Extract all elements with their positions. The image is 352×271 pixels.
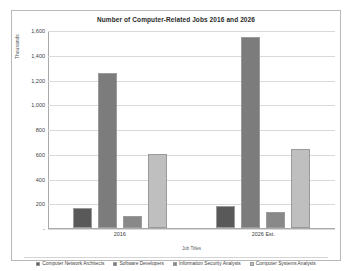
y-axis-tick-label: 800 xyxy=(36,127,45,133)
y-axis-tick-label: 1,200 xyxy=(31,78,45,84)
y-axis-tick-label: 1,000 xyxy=(31,102,45,108)
y-axis-tick-label: - xyxy=(43,226,45,232)
bar[interactable] xyxy=(266,212,285,228)
legend-label: Software Developers xyxy=(119,261,164,266)
legend-item[interactable]: Computer Systems Analysts xyxy=(250,261,316,266)
y-axis-tick-label: 1,600 xyxy=(31,28,45,34)
legend-swatch-icon xyxy=(173,262,177,266)
bar[interactable] xyxy=(123,216,142,228)
y-axis-title: Thousands xyxy=(14,34,20,59)
legend-divider xyxy=(24,257,328,258)
bar[interactable] xyxy=(73,208,92,228)
x-axis-title: Job Titles xyxy=(48,246,335,251)
y-axis-tick-label: 400 xyxy=(36,177,45,183)
y-axis-tick-label: 600 xyxy=(36,152,45,158)
legend-swatch-icon xyxy=(36,262,40,266)
bar[interactable] xyxy=(216,206,235,228)
y-axis-tick-label: 1,400 xyxy=(31,53,45,59)
bar-group: 2016 xyxy=(48,30,192,228)
plot-area: 1,6001,4001,2001,000800600400200-2016202… xyxy=(48,31,335,229)
gridline xyxy=(48,229,335,230)
chart-legend: Computer Network ArchitectsSoftware Deve… xyxy=(12,261,340,266)
legend-item[interactable]: Software Developers xyxy=(113,261,164,266)
bar[interactable] xyxy=(148,154,167,228)
bar[interactable] xyxy=(291,149,310,228)
legend-swatch-icon xyxy=(113,262,117,266)
bar-group: 2026 Est. xyxy=(192,30,336,228)
legend-label: Information Security Analysts xyxy=(179,261,241,266)
bar[interactable] xyxy=(98,73,117,228)
legend-swatch-icon xyxy=(250,262,254,266)
bar[interactable] xyxy=(241,37,260,228)
chart-frame: Number of Computer-Related Jobs 2016 and… xyxy=(11,10,341,261)
x-axis-category-label: 2026 Est. xyxy=(192,231,336,237)
legend-item[interactable]: Information Security Analysts xyxy=(173,261,241,266)
legend-label: Computer Network Architects xyxy=(42,261,104,266)
legend-item[interactable]: Computer Network Architects xyxy=(36,261,104,266)
chart-title: Number of Computer-Related Jobs 2016 and… xyxy=(12,16,340,23)
legend-label: Computer Systems Analysts xyxy=(256,261,316,266)
y-axis-tick-label: 200 xyxy=(36,201,45,207)
x-axis-category-label: 2016 xyxy=(48,231,192,237)
